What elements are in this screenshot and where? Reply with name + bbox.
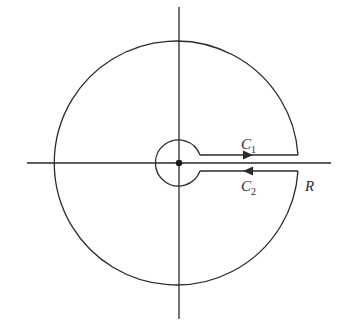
keyhole-contour-diagram: C1 C2 R xyxy=(0,0,349,332)
label-c2: C2 xyxy=(241,178,256,197)
origin-point xyxy=(176,160,182,166)
arrow-left-icon xyxy=(243,167,253,176)
label-r: R xyxy=(304,178,314,194)
